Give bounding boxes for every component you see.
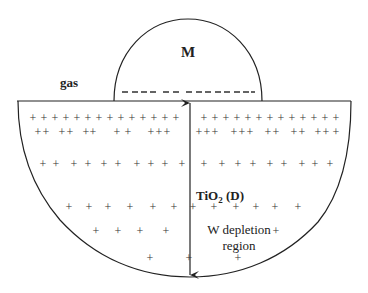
plus-charge-icon: + (71, 157, 78, 171)
plus-charge-icon: + (66, 200, 73, 214)
plus-charge-icon: + (299, 157, 306, 171)
plus-charge-icon: + (134, 157, 141, 171)
plus-charge-icon: + (291, 125, 298, 139)
plus-charge-icon: + (267, 157, 274, 171)
plus-charge-icon: + (85, 111, 92, 125)
plus-charge-icon: + (265, 125, 272, 139)
plus-charge-icon: + (90, 125, 97, 139)
plus-charge-icon: + (101, 157, 108, 171)
plus-charge-icon: + (327, 157, 334, 171)
plus-charge-icon: + (173, 111, 180, 125)
positive-donor-charges: ++++++++++++++++++++++++++++++++++++++++… (30, 111, 340, 265)
plus-charge-icon: + (63, 111, 70, 125)
semiconductor-label: TiO2 (D) (196, 188, 244, 205)
plus-charge-icon: + (245, 111, 252, 125)
plus-charge-icon: + (114, 125, 121, 139)
plus-charge-icon: + (171, 200, 178, 214)
plus-charge-icon: + (162, 157, 169, 171)
metal-dome (114, 19, 262, 101)
plus-charge-icon: + (67, 125, 74, 139)
plus-charge-icon: + (74, 111, 81, 125)
metal-semiconductor-diagram: ++++++++++++++++++++++++++++++++++++++++… (0, 0, 368, 293)
plus-charge-icon: + (272, 200, 279, 214)
plus-charge-icon: + (96, 111, 103, 125)
plus-charge-icon: + (53, 157, 60, 171)
plus-charge-icon: + (250, 157, 257, 171)
plus-charge-icon: + (299, 125, 306, 139)
gas-label: gas (60, 75, 78, 90)
plus-charge-icon: + (273, 125, 280, 139)
plus-charge-icon: + (235, 251, 242, 265)
plus-charge-icon: + (295, 200, 302, 214)
plus-charge-icon: + (127, 200, 134, 214)
plus-charge-icon: + (156, 125, 163, 139)
plus-charge-icon: + (323, 125, 330, 139)
plus-charge-icon: + (235, 157, 242, 171)
plus-charge-icon: + (164, 125, 171, 139)
plus-charge-icon: + (30, 111, 37, 125)
plus-charge-icon: + (35, 125, 42, 139)
plus-charge-icon: + (315, 125, 322, 139)
plus-charge-icon: + (52, 111, 59, 125)
plus-charge-icon: + (137, 224, 144, 238)
plus-charge-icon: + (322, 111, 329, 125)
plus-charge-icon: + (115, 224, 122, 238)
plus-charge-icon: + (162, 111, 169, 125)
plus-charge-icon: + (86, 200, 93, 214)
plus-charge-icon: + (140, 111, 147, 125)
plus-charge-icon: + (151, 111, 158, 125)
plus-charge-icon: + (147, 251, 154, 265)
plus-charge-icon: + (150, 200, 157, 214)
metal-label: M (181, 44, 195, 60)
semiconductor-label-suffix: (D) (223, 188, 244, 203)
plus-charge-icon: + (148, 157, 155, 171)
plus-charge-icon: + (239, 125, 246, 139)
plus-charge-icon: + (267, 111, 274, 125)
plus-charge-icon: + (278, 111, 285, 125)
plus-charge-icon: + (289, 111, 296, 125)
plus-charge-icon: + (93, 224, 100, 238)
plus-charge-icon: + (231, 125, 238, 139)
plus-charge-icon: + (85, 157, 92, 171)
plus-charge-icon: + (129, 111, 136, 125)
plus-charge-icon: + (234, 111, 241, 125)
plus-charge-icon: + (311, 111, 318, 125)
plus-charge-icon: + (201, 157, 208, 171)
plus-charge-icon: + (125, 125, 132, 139)
semiconductor-label-main: TiO (196, 188, 218, 203)
plus-charge-icon: + (105, 200, 112, 214)
depletion-region-label-line1: W depletion (207, 222, 271, 237)
plus-charge-icon: + (273, 224, 280, 238)
plus-charge-icon: + (179, 157, 186, 171)
plus-charge-icon: + (59, 125, 66, 139)
plus-charge-icon: + (83, 125, 90, 139)
plus-charge-icon: + (256, 111, 263, 125)
plus-charge-icon: + (43, 125, 50, 139)
depletion-region-label-line2: region (222, 238, 256, 253)
plus-charge-icon: + (212, 111, 219, 125)
plus-charge-icon: + (223, 111, 230, 125)
plus-charge-icon: + (40, 157, 47, 171)
plus-charge-icon: + (333, 111, 340, 125)
plus-charge-icon: + (212, 125, 219, 139)
plus-charge-icon: + (41, 111, 48, 125)
plus-charge-icon: + (107, 111, 114, 125)
plus-charge-icon: + (247, 125, 254, 139)
plus-charge-icon: + (333, 125, 340, 139)
plus-charge-icon: + (312, 157, 319, 171)
plus-charge-icon: + (204, 125, 211, 139)
plus-charge-icon: + (281, 157, 288, 171)
plus-charge-icon: + (253, 200, 260, 214)
plus-charge-icon: + (186, 251, 193, 265)
plus-charge-icon: + (219, 157, 226, 171)
plus-charge-icon: + (115, 157, 122, 171)
plus-charge-icon: + (118, 111, 125, 125)
plus-charge-icon: + (201, 111, 208, 125)
plus-charge-icon: + (300, 111, 307, 125)
plus-charge-icon: + (196, 125, 203, 139)
plus-charge-icon: + (163, 224, 170, 238)
plus-charge-icon: + (148, 125, 155, 139)
